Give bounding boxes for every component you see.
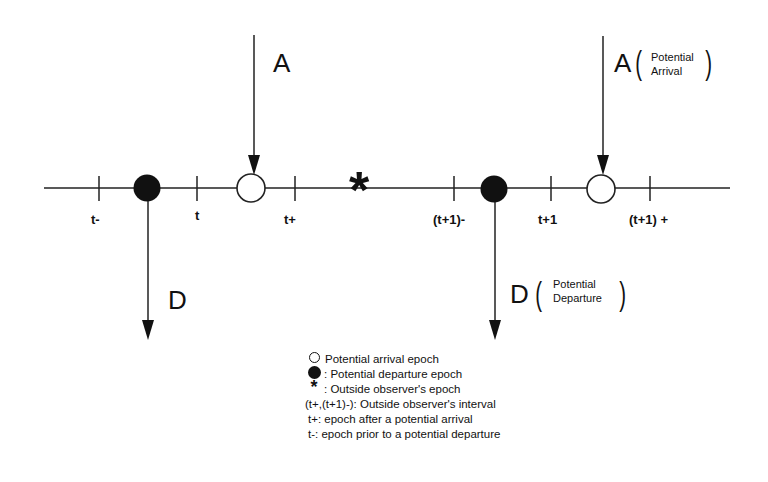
close-paren: ) [705,45,712,79]
potential-departure-note: Potential Departure [553,277,602,305]
legend-item: Potential arrival epoch [306,352,500,367]
departure-label: D [168,285,187,316]
departure-epoch-icon [481,176,508,203]
open-circle-icon [309,352,320,363]
arrow-head-icon [489,320,501,340]
tick-label: t+ [284,212,296,227]
legend: Potential arrival epoch : Potential depa… [306,352,500,442]
tick-label: t [195,208,199,223]
legend-item: (t+,(t+1)-): Outside observer's interval [305,397,500,412]
arrow-head-icon [248,155,260,175]
legend-item: t-: epoch prior to a potential departure [308,427,500,442]
departure-label: D [510,279,529,310]
arrow-head-icon [597,155,609,175]
observer-epoch-star-icon: * [349,164,369,216]
legend-item: t+: epoch after a potential arrival [308,412,500,427]
departure-epoch-icon [134,175,161,202]
close-paren: ) [619,276,626,310]
arrow-head-icon [142,320,154,340]
star-icon: * [310,377,317,397]
tick-label: t- [91,212,100,227]
open-paren: ( [535,276,542,310]
tick-label: t+1 [538,212,557,227]
legend-item: : Potential departure epoch [306,367,500,382]
arrival-label: A [614,48,631,79]
arrival-label: A [273,48,290,79]
potential-arrival-note: Potential Arrival [651,50,694,78]
arrival-epoch-icon [237,174,265,202]
legend-item: * : Outside observer's epoch [306,382,500,397]
open-paren: ( [635,45,642,79]
tick-label: (t+1)- [433,212,465,227]
arrival-epoch-icon [587,175,615,203]
tick-label: (t+1) + [629,212,668,227]
